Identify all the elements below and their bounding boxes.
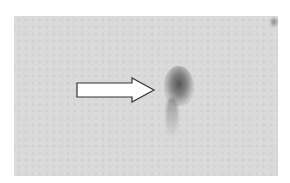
spot-tail [166,98,178,138]
image-panel [14,16,278,176]
arrow-right-icon [76,77,156,103]
corner-artifact [269,16,279,28]
